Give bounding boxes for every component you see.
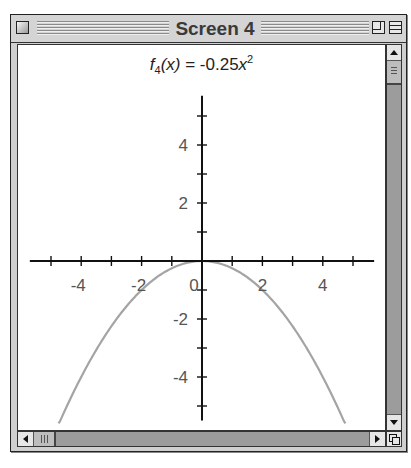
plot-area: f4(x) = -0.25x2 -4-224042-2-4 bbox=[17, 44, 386, 431]
collapse-box-icon[interactable] bbox=[389, 21, 402, 34]
scroll-left-button[interactable] bbox=[18, 432, 34, 446]
grip-icon bbox=[41, 435, 49, 443]
grip-icon bbox=[391, 67, 397, 76]
y-tick-label: -4 bbox=[173, 368, 188, 387]
x-tick-label: 4 bbox=[318, 276, 327, 295]
function-graph: -4-224042-2-4 bbox=[18, 45, 385, 430]
y-tick-label: 2 bbox=[179, 194, 188, 213]
origin-label: 0 bbox=[189, 276, 198, 295]
scroll-up-button[interactable] bbox=[387, 45, 401, 61]
arrow-up-icon bbox=[390, 50, 398, 55]
grow-icon-square-2 bbox=[392, 437, 400, 445]
graph-window: Screen 4 f4(x) = -0.25x2 -4-224042-2-4 bbox=[10, 14, 407, 452]
scroll-right-button[interactable] bbox=[369, 432, 385, 446]
close-box-icon[interactable] bbox=[16, 21, 29, 34]
x-tick-label: 2 bbox=[258, 276, 267, 295]
arrow-left-icon bbox=[23, 435, 28, 443]
vertical-scrollbar[interactable] bbox=[386, 44, 402, 431]
x-tick-label: -4 bbox=[71, 276, 86, 295]
scroll-down-button[interactable] bbox=[387, 414, 401, 430]
y-tick-label: -2 bbox=[173, 310, 188, 329]
arrow-right-icon bbox=[375, 435, 380, 443]
y-tick-label: 4 bbox=[179, 136, 188, 155]
zoom-box-icon[interactable] bbox=[372, 21, 385, 34]
title-stripes-right bbox=[261, 21, 369, 35]
title-bar[interactable]: Screen 4 bbox=[11, 15, 406, 43]
vertical-scroll-thumb[interactable] bbox=[387, 61, 401, 85]
resize-grow-box[interactable] bbox=[386, 431, 402, 447]
arrow-down-icon bbox=[390, 420, 398, 425]
title-stripes-left bbox=[37, 21, 169, 35]
x-tick-label: -2 bbox=[131, 276, 146, 295]
horizontal-scrollbar[interactable] bbox=[17, 431, 386, 447]
horizontal-scroll-thumb[interactable] bbox=[34, 432, 56, 446]
window-title: Screen 4 bbox=[169, 17, 261, 41]
